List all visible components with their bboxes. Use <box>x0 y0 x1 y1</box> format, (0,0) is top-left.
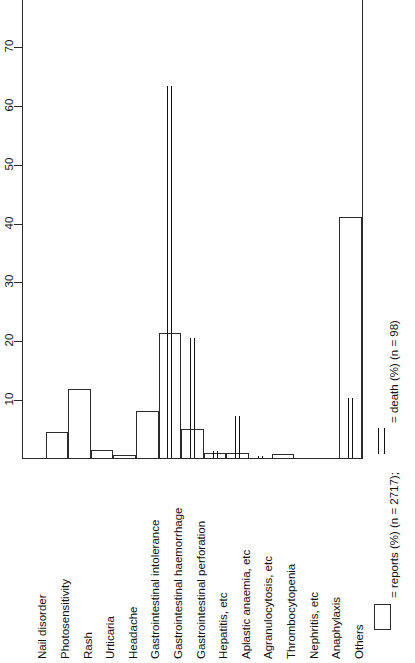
value-axis-tick-label: 10 <box>3 390 15 408</box>
bar-reports <box>113 455 136 458</box>
bar-slot <box>249 0 272 458</box>
bar-slot <box>317 0 340 458</box>
category-label: Nail disorder <box>37 594 49 659</box>
legend-swatch-death <box>378 428 385 454</box>
category-label: Gastrointestinal intolerance <box>150 520 162 659</box>
value-axis-tick <box>14 106 22 107</box>
category-axis-labels: Nail disorderPhotosensitivityRashUrticar… <box>22 462 363 663</box>
chart-legend: = reports (%) (n = 2717);= death (%) (n … <box>368 0 415 663</box>
bar-slot <box>339 0 362 458</box>
bar-reports <box>136 411 159 458</box>
category-label: Hepatitis, etc <box>218 593 230 659</box>
bar-reports <box>46 432 69 458</box>
chart-figure: 10203040506070 Nail disorderPhotosensiti… <box>0 0 415 663</box>
bar-death <box>258 456 263 458</box>
legend-label-reports: = reports (%) (n = 2717); <box>388 472 400 598</box>
bar-reports <box>91 450 114 458</box>
bar-slot <box>91 0 114 458</box>
bar-slot <box>46 0 69 458</box>
value-axis-tick-label: 70 <box>3 37 15 55</box>
value-axis-tick <box>14 47 22 48</box>
bar-reports <box>68 389 91 458</box>
bar-death <box>348 398 353 458</box>
plot-area <box>22 0 363 459</box>
value-axis-tick-label: 20 <box>3 331 15 349</box>
bar-slot <box>23 0 46 458</box>
bar-slot <box>181 0 204 458</box>
category-label: Agranulocytosis, etc <box>263 556 275 659</box>
value-axis-tick <box>14 165 22 166</box>
bar-group <box>23 0 362 458</box>
legend-label-death: = death (%) (n = 98) <box>388 320 400 423</box>
bar-slot <box>294 0 317 458</box>
value-axis-tick-label: 40 <box>3 214 15 232</box>
value-axis-tick-label: 50 <box>3 155 15 173</box>
legend-swatch-reports <box>374 604 391 630</box>
category-label: Aplastic anaemia, etc <box>241 550 253 659</box>
value-axis-tick <box>14 341 22 342</box>
category-label: Others <box>354 624 366 659</box>
category-label: Rash <box>83 632 95 659</box>
category-label: Nephritis, etc <box>309 592 321 659</box>
bar-slot <box>68 0 91 458</box>
category-label: Headache <box>128 607 140 659</box>
bar-reports <box>272 454 295 458</box>
bar-slot <box>159 0 182 458</box>
category-label: Gastrointestinal haemorrhage <box>173 508 185 660</box>
bar-death <box>235 416 240 458</box>
bar-death <box>213 451 218 458</box>
bar-death <box>190 338 195 458</box>
category-label: Thrombocytopenia <box>286 564 298 659</box>
bar-slot <box>204 0 227 458</box>
bar-slot <box>226 0 249 458</box>
value-axis-tick-label: 30 <box>3 272 15 290</box>
category-label: Photosensitivity <box>60 579 72 659</box>
bar-slot <box>272 0 295 458</box>
value-axis-tick <box>14 224 22 225</box>
value-axis-tick-label: 60 <box>3 96 15 114</box>
value-axis-tick <box>14 282 22 283</box>
category-label: Anaphylaxis <box>331 597 343 659</box>
bar-slot <box>136 0 159 458</box>
bar-slot <box>113 0 136 458</box>
bar-death <box>167 86 172 458</box>
value-axis-tick <box>14 400 22 401</box>
category-label: Urticaria <box>105 616 117 659</box>
category-label: Gastrointestinal perforation <box>196 521 208 659</box>
